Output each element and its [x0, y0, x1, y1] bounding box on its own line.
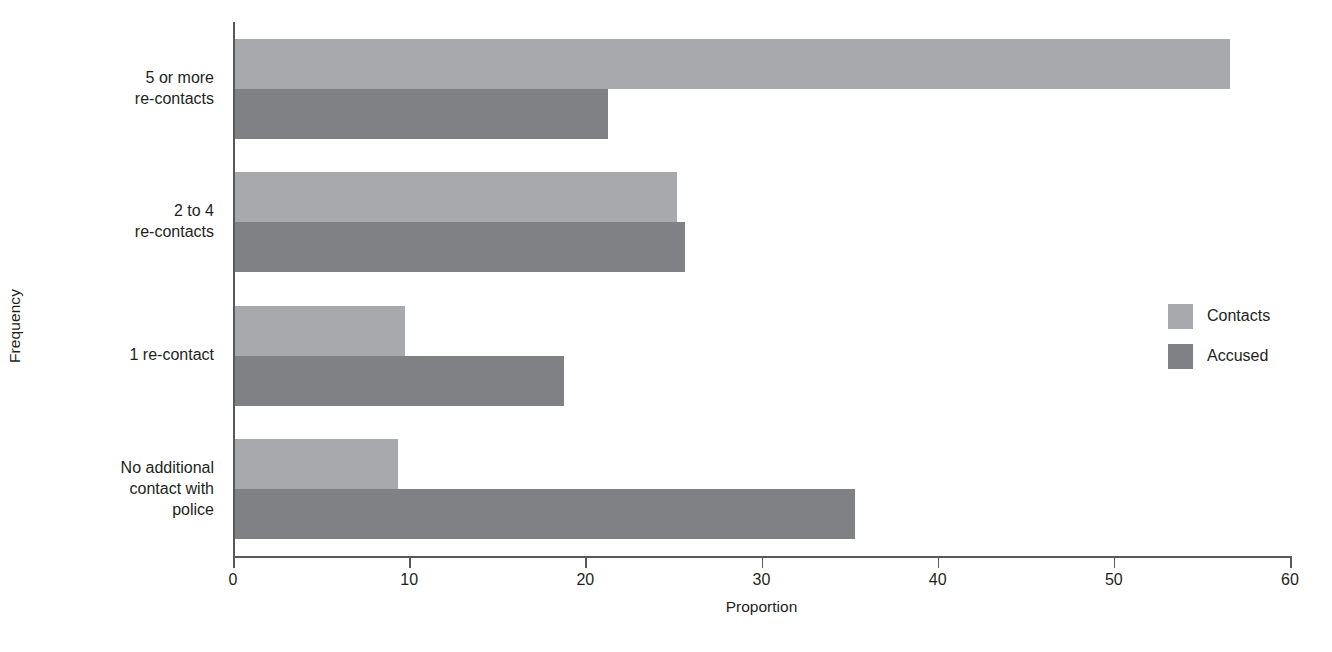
x-tick-label-2: 20	[555, 571, 615, 589]
x-tick-label-1: 10	[379, 571, 439, 589]
bar-accused-1	[235, 356, 564, 406]
y-category-label-1: 1 re-contact	[130, 345, 214, 366]
plot-area: 0102030405060	[233, 22, 1290, 556]
legend-label-accused: Accused	[1207, 347, 1268, 365]
y-category-label-2: 2 to 4 re-contacts	[135, 201, 214, 243]
bar-accused-0	[235, 489, 855, 539]
bar-contacts-3	[235, 39, 1230, 89]
x-tick-label-5: 50	[1084, 571, 1144, 589]
x-tick-1	[409, 556, 411, 568]
y-axis-title: Frequency	[0, 0, 30, 652]
x-tick-5	[1114, 556, 1116, 568]
legend-item-contacts[interactable]: Contacts	[1168, 296, 1270, 336]
x-tick-0	[233, 556, 235, 568]
x-tick-label-0: 0	[203, 571, 263, 589]
bar-contacts-1	[235, 306, 406, 356]
bar-accused-3	[235, 89, 608, 139]
legend-item-accused[interactable]: Accused	[1168, 336, 1270, 376]
x-tick-label-4: 40	[908, 571, 968, 589]
legend-label-contacts: Contacts	[1207, 307, 1270, 325]
legend-swatch-contacts	[1168, 304, 1193, 329]
bar-contacts-0	[235, 439, 399, 489]
y-category-label-3: 5 or more re-contacts	[135, 68, 214, 110]
x-tick-3	[762, 556, 764, 568]
legend: ContactsAccused	[1168, 296, 1270, 376]
y-category-label-0: No additional contact with police	[121, 458, 214, 520]
x-tick-label-3: 30	[732, 571, 792, 589]
x-tick-6	[1290, 556, 1292, 568]
x-tick-4	[938, 556, 940, 568]
legend-swatch-accused	[1168, 344, 1193, 369]
x-axis-title: Proportion	[233, 598, 1290, 616]
x-tick-2	[585, 556, 587, 568]
x-tick-label-6: 60	[1260, 571, 1320, 589]
bar-accused-2	[235, 222, 686, 272]
bar-chart: Frequency 0102030405060 No additional co…	[0, 0, 1332, 652]
bar-contacts-2	[235, 172, 677, 222]
